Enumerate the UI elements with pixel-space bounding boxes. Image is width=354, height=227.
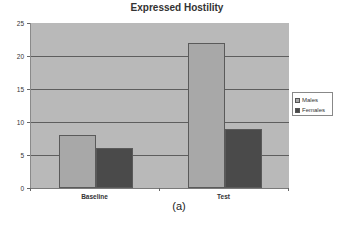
bar-females-test — [225, 129, 262, 188]
gridline — [31, 89, 289, 90]
chart-title: Expressed Hostility — [0, 2, 354, 13]
x-tick-label: Test — [217, 193, 230, 200]
y-tick-label: 15 — [0, 86, 24, 93]
legend-swatch-icon — [295, 98, 300, 103]
bar-males-baseline — [59, 135, 96, 188]
x-tick-label: Baseline — [81, 193, 108, 200]
x-tick-mark — [30, 188, 31, 191]
x-tick-mark — [288, 188, 289, 191]
legend-label: Males — [302, 97, 318, 103]
y-tick-label: 25 — [0, 20, 24, 27]
y-tick-label: 5 — [0, 152, 24, 159]
y-tick-label: 10 — [0, 119, 24, 126]
plot-area — [30, 23, 289, 189]
legend-label: Females — [302, 107, 325, 113]
legend-swatch-icon — [295, 108, 300, 113]
bar-males-test — [188, 43, 225, 188]
legend-item-males: Males — [295, 95, 330, 105]
legend: MalesFemales — [292, 92, 333, 116]
bar-females-baseline — [96, 148, 133, 188]
y-tick-label: 0 — [0, 185, 24, 192]
x-tick-mark — [159, 188, 160, 191]
y-tick-label: 20 — [0, 53, 24, 60]
legend-item-females: Females — [295, 105, 330, 115]
figure-caption: (a) — [0, 200, 354, 212]
gridline — [31, 122, 289, 123]
gridline — [31, 56, 289, 57]
